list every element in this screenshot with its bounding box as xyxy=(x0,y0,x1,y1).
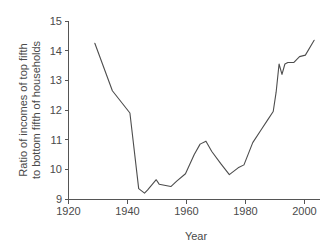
y-tick-label-14: 14 xyxy=(50,45,62,57)
chart-figure: Ratio of incomes of top fifth to bottom … xyxy=(0,0,336,251)
x-tick-label-1980: 1980 xyxy=(233,205,257,217)
x-tick-label-1920: 1920 xyxy=(56,205,80,217)
x-tick-label-1960: 1960 xyxy=(174,205,198,217)
y-axis-label-line2: to bottom fifth of households xyxy=(30,40,42,179)
x-tick-label-1940: 1940 xyxy=(115,205,139,217)
y-tick-label-13: 13 xyxy=(50,74,62,86)
line-chart: Ratio of incomes of top fifth to bottom … xyxy=(0,0,336,251)
data-series-line xyxy=(95,40,314,193)
y-tick-label-10: 10 xyxy=(50,163,62,175)
y-axis-label-line1: Ratio of incomes of top fifth xyxy=(17,43,29,176)
x-axis-label: Year xyxy=(185,230,208,242)
y-tick-label-15: 15 xyxy=(50,15,62,27)
y-tick-label-12: 12 xyxy=(50,104,62,116)
y-tick-label-11: 11 xyxy=(51,134,62,146)
y-tick-label-9: 9 xyxy=(56,193,62,205)
x-tick-label-2000: 2000 xyxy=(292,205,316,217)
